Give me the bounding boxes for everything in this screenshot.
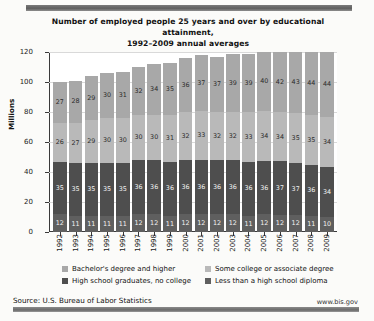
bar-segment: 44 bbox=[305, 52, 319, 115]
bar-value-label: 33 bbox=[197, 132, 205, 138]
bar-value-label: 36 bbox=[260, 185, 268, 191]
bar-segment: 28 bbox=[69, 81, 83, 123]
x-axis-tick-text: 2000 bbox=[182, 234, 190, 252]
chart-page: Number of employed people 25 years and o… bbox=[0, 0, 374, 321]
source-note: Source: U.S. Bureau of Labor Statistics bbox=[13, 296, 152, 305]
bar-segment: 35 bbox=[100, 163, 114, 216]
x-axis-tick-text: 1994 bbox=[87, 234, 95, 252]
legend-item[interactable]: Some college or associate degree bbox=[205, 265, 342, 273]
bar-value-label: 35 bbox=[56, 185, 64, 191]
bar-segment: 11 bbox=[100, 216, 114, 233]
bar-value-label: 11 bbox=[87, 221, 95, 227]
bar-column: 40343612 bbox=[257, 52, 271, 232]
bar-value-label: 11 bbox=[72, 221, 80, 227]
x-axis-tick-label: 2001 bbox=[195, 233, 209, 263]
x-axis-tick-label: 2000 bbox=[179, 233, 193, 263]
bar-value-label: 35 bbox=[119, 186, 127, 192]
bar-value-label: 43 bbox=[292, 79, 300, 85]
bar-column: 27263512 bbox=[53, 52, 67, 232]
bar-segment: 35 bbox=[85, 163, 99, 216]
bar-segment: 32 bbox=[226, 112, 240, 160]
bar-value-label: 30 bbox=[134, 134, 142, 140]
legend-swatch-icon bbox=[62, 266, 68, 272]
bar-segment: 30 bbox=[132, 115, 146, 160]
bar-value-label: 36 bbox=[182, 82, 190, 88]
bar-value-label: 31 bbox=[119, 92, 127, 98]
bar-segment: 36 bbox=[305, 165, 319, 216]
bar-segment: 40 bbox=[257, 52, 271, 111]
bar-segment: 30 bbox=[147, 115, 161, 160]
x-axis-tick-label: 1998 bbox=[147, 233, 161, 263]
bar-segment: 36 bbox=[257, 161, 271, 214]
bottom-divider bbox=[13, 307, 359, 312]
x-axis-tick-label: 1997 bbox=[132, 233, 146, 263]
x-axis-tick-text: 1996 bbox=[119, 234, 127, 252]
legend-item[interactable]: High school graduates, no college bbox=[62, 277, 199, 285]
bar-segment: 12 bbox=[273, 215, 287, 232]
bar-value-label: 12 bbox=[56, 220, 64, 226]
bar-value-label: 36 bbox=[244, 185, 252, 191]
bar-segment: 12 bbox=[257, 214, 271, 232]
bar-value-label: 32 bbox=[182, 133, 190, 139]
x-axis-tick-text: 2003 bbox=[229, 234, 237, 252]
bar-segment: 12 bbox=[289, 215, 303, 232]
legend-item[interactable]: Bachelor's degree and higher bbox=[62, 265, 199, 273]
bar-segment: 35 bbox=[69, 163, 83, 216]
bar-segment: 12 bbox=[210, 214, 224, 232]
bar-value-label: 29 bbox=[87, 95, 95, 101]
bar-segment: 27 bbox=[53, 82, 67, 123]
bar-segment: 31 bbox=[163, 115, 177, 162]
bar-segment: 30 bbox=[100, 73, 114, 118]
x-axis-tick-text: 2007 bbox=[292, 234, 300, 252]
bar-segment: 36 bbox=[132, 160, 146, 214]
x-axis-tick-label: 1993 bbox=[69, 233, 83, 263]
bar-segment: 36 bbox=[163, 162, 177, 216]
bar-column: 34303612 bbox=[147, 52, 161, 232]
bar-segment: 29 bbox=[85, 76, 99, 120]
bar-segment: 35 bbox=[305, 115, 319, 165]
x-axis-tick-label: 2004 bbox=[242, 233, 256, 263]
bar-value-label: 36 bbox=[213, 184, 221, 190]
bar-segment: 29 bbox=[85, 120, 99, 164]
x-axis-tick-label: 1996 bbox=[116, 233, 130, 263]
bar-segment: 32 bbox=[210, 112, 224, 160]
bar-value-label: 36 bbox=[307, 187, 315, 193]
bar-segment: 39 bbox=[226, 54, 240, 113]
bar-value-label: 30 bbox=[103, 137, 111, 143]
bar-segment: 33 bbox=[195, 111, 209, 161]
legend-item[interactable]: Less than a high school diploma bbox=[205, 277, 342, 285]
bar-column: 29293511 bbox=[85, 52, 99, 232]
bar-segment: 35 bbox=[53, 162, 67, 215]
bar-value-label: 34 bbox=[276, 134, 284, 140]
bar-value-label: 31 bbox=[166, 135, 174, 141]
y-tick-label: 100 bbox=[0, 78, 33, 86]
legend-swatch-icon bbox=[205, 278, 211, 284]
bar-value-label: 37 bbox=[197, 80, 205, 86]
bar-value-label: 11 bbox=[119, 221, 127, 227]
bar-value-label: 12 bbox=[182, 220, 190, 226]
bar-value-label: 11 bbox=[166, 221, 174, 227]
bar-column: 30303511 bbox=[100, 52, 114, 232]
website-url: www.bis.gov bbox=[317, 298, 358, 306]
bar-value-label: 36 bbox=[166, 185, 174, 191]
y-tick-label: 40 bbox=[0, 168, 33, 176]
y-tick-label: 0 bbox=[0, 228, 33, 236]
bar-value-label: 27 bbox=[56, 99, 64, 105]
bar-segment: 34 bbox=[320, 117, 334, 167]
bar-segment: 11 bbox=[69, 216, 83, 233]
x-axis-tick-text: 2002 bbox=[213, 234, 221, 252]
bar-segment: 36 bbox=[147, 160, 161, 214]
top-divider bbox=[26, 5, 352, 11]
bar-value-label: 34 bbox=[150, 86, 158, 92]
bar-value-label: 39 bbox=[244, 80, 252, 86]
bar-value-label: 34 bbox=[260, 133, 268, 139]
bar-value-label: 33 bbox=[244, 134, 252, 140]
bar-value-label: 27 bbox=[72, 140, 80, 146]
bar-segment: 32 bbox=[132, 67, 146, 115]
x-axis-tick-label: 2009 bbox=[320, 233, 334, 263]
bar-column: 44353611 bbox=[305, 52, 319, 232]
x-axis-tick-label: 2007 bbox=[289, 233, 303, 263]
y-tick-label: 20 bbox=[0, 198, 33, 206]
chart-title-line-1: Number of employed people 25 years and o… bbox=[32, 16, 344, 38]
chart-legend: Bachelor's degree and higherSome college… bbox=[62, 265, 342, 285]
